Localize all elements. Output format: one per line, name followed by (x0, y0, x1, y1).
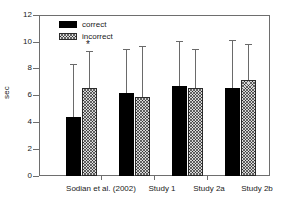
bar-incorrect[interactable] (135, 97, 150, 176)
chart-legend: correct incorrect (59, 19, 113, 43)
y-axis-tick-label: 12 (10, 11, 32, 19)
y-axis-tick (33, 176, 39, 177)
x-axis-tick-label: Study 2b (241, 184, 273, 193)
bar-group (119, 16, 157, 176)
legend-swatch-incorrect-icon (59, 33, 77, 40)
error-bar-incorrect (89, 52, 90, 88)
y-axis-tick-label: 8 (10, 64, 32, 72)
error-bar-cap (86, 51, 93, 52)
error-bar-cap (123, 49, 130, 50)
error-bar-correct (232, 41, 233, 88)
error-bar-correct (126, 50, 127, 93)
x-axis-tick (101, 176, 102, 180)
error-bar-cap (229, 40, 236, 41)
error-bar-cap (192, 49, 199, 50)
bar-group (172, 16, 210, 176)
bar-incorrect[interactable] (241, 80, 256, 176)
bar-correct[interactable] (225, 88, 240, 176)
y-axis-tick-label: 10 (10, 38, 32, 46)
x-axis-tick-label: Study 1 (148, 184, 175, 193)
bar-correct[interactable] (66, 117, 81, 176)
error-bar-cap (139, 46, 146, 47)
legend-label-incorrect: incorrect (82, 32, 113, 41)
error-bar-correct (73, 65, 74, 117)
x-axis-tick (207, 176, 208, 180)
error-bar-correct (179, 42, 180, 86)
y-axis-tick-label: 0 (10, 172, 32, 180)
bar-correct[interactable] (119, 93, 134, 176)
bar-incorrect[interactable] (82, 88, 97, 176)
x-axis-tick-label: Study 2a (193, 184, 225, 193)
error-bar-cap (70, 64, 77, 65)
legend-item-incorrect[interactable]: incorrect (59, 31, 113, 42)
x-axis-tick (154, 176, 155, 180)
y-axis-tick-label: 2 (10, 145, 32, 153)
bar-incorrect[interactable] (188, 88, 203, 176)
y-axis-tick-label: 6 (10, 91, 32, 99)
x-axis-tick-label: Sodian et al. (2002) (66, 184, 136, 193)
error-bar-incorrect (195, 50, 196, 88)
error-bar-cap (176, 41, 183, 42)
legend-swatch-correct-icon (59, 21, 77, 28)
bar-chart-figure: sec 12 10 8 6 4 2 0 * (0, 0, 284, 208)
error-bar-cap (245, 44, 252, 45)
error-bar-incorrect (142, 47, 143, 97)
bar-group (225, 16, 263, 176)
bar-correct[interactable] (172, 86, 187, 176)
legend-item-correct[interactable]: correct (59, 19, 113, 30)
y-axis-tick-label: 4 (10, 118, 32, 126)
error-bar-incorrect (248, 45, 249, 80)
legend-label-correct: correct (82, 20, 106, 29)
